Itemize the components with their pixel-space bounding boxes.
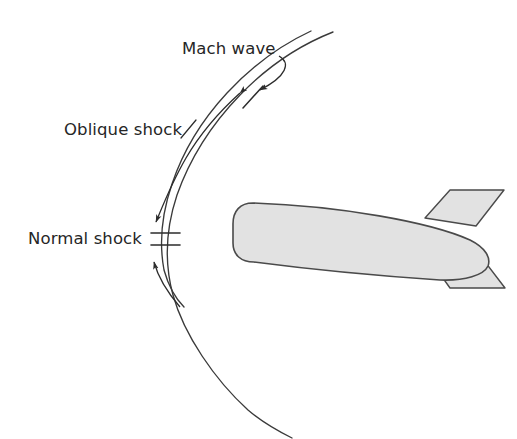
- shock-wave-diagram: Mach wave Oblique shock Normal shock: [0, 0, 517, 439]
- normal-shock-label: Normal shock: [28, 229, 142, 248]
- oblique-shock-label: Oblique shock: [64, 120, 182, 139]
- diagram-canvas: Mach wave Oblique shock Normal shock: [0, 0, 517, 439]
- normal-shock-tick-marks-icon: [151, 233, 180, 245]
- vehicle-group: [233, 190, 505, 288]
- upper-tail-fin: [425, 190, 504, 226]
- oblique-shock-leader: [156, 93, 240, 222]
- mach-wave-label: Mach wave: [182, 39, 276, 58]
- normal-shock-lower-arrow: [154, 262, 180, 307]
- oblique-shock-label-stub: [181, 120, 196, 138]
